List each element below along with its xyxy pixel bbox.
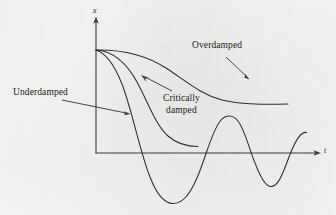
annotation-arrows-group xyxy=(62,57,250,115)
overdamped-leader-line xyxy=(226,57,246,76)
axes-group xyxy=(93,17,321,156)
critically-damped-label-line2: damped xyxy=(163,105,200,117)
critically-damped-label-line1: Critically xyxy=(163,93,200,105)
underdamped-curve xyxy=(96,50,307,204)
overdamped-arrowhead xyxy=(241,74,249,79)
critically-damped-leader-line xyxy=(145,77,172,91)
curves-group xyxy=(96,50,307,204)
x-axis-label: x xyxy=(93,6,97,15)
overdamped-label: Overdamped xyxy=(192,40,242,52)
critically-damped-label: Critically damped xyxy=(163,93,200,116)
underdamped-leader-line xyxy=(62,100,126,113)
underdamped-label: Underdamped xyxy=(13,87,68,99)
figure-page: x t Overdamped Underdamped Critically da… xyxy=(0,0,336,215)
t-axis-label: t xyxy=(324,146,326,155)
